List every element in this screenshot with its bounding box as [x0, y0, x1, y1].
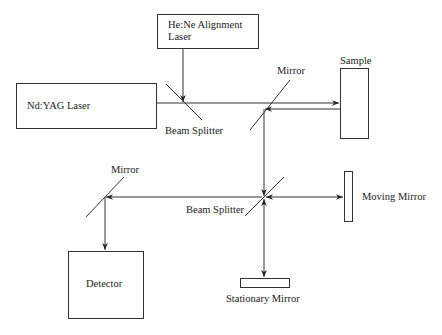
moving-mirror-label: Moving Mirror	[362, 191, 426, 203]
ndyag-laser-label: Nd:YAG Laser	[27, 100, 90, 112]
stationary-mirror-label: Stationary Mirror	[226, 293, 300, 305]
detector-label: Detector	[86, 278, 122, 290]
hene-laser-label-1: He:Ne Alignment	[168, 19, 242, 31]
beam-splitter-center-label: Beam Splitter	[186, 204, 244, 216]
optical-diagram: He:Ne Alignment Laser Nd:YAG Laser Beam …	[0, 0, 442, 335]
beam-paths	[0, 0, 442, 335]
sample-box	[340, 68, 369, 139]
mirror-top-glyph	[250, 80, 290, 130]
beam-splitter-top-label: Beam Splitter	[165, 125, 223, 137]
stationary-mirror-box	[240, 278, 290, 288]
mirror-left-label: Mirror	[111, 164, 139, 176]
moving-mirror-box	[344, 171, 353, 222]
beam-splitter-top-glyph	[166, 84, 202, 120]
mirror-top-label: Mirror	[277, 65, 305, 77]
sample-label: Sample	[340, 55, 372, 67]
hene-laser-label-2: Laser	[168, 31, 191, 43]
